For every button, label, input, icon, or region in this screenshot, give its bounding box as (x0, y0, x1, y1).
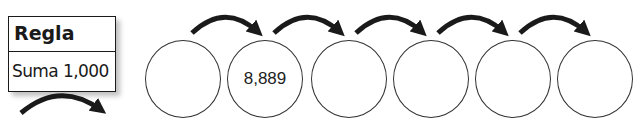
sequence-circle-3[interactable] (311, 40, 387, 118)
sequence-circle-1[interactable] (145, 40, 221, 118)
rule-arrow-icon (21, 96, 101, 113)
sequence-circle-4[interactable] (393, 40, 469, 118)
step-arrow-icon (520, 17, 586, 33)
sequence-circle-2: 8,889 (227, 40, 303, 118)
step-arrow-icon (438, 17, 504, 33)
step-arrow-icon (192, 17, 258, 33)
sequence-circle-5[interactable] (475, 40, 551, 118)
step-arrow-icon (356, 17, 422, 33)
step-arrow-icon (274, 17, 340, 33)
sequence-circle-6[interactable] (557, 40, 633, 118)
